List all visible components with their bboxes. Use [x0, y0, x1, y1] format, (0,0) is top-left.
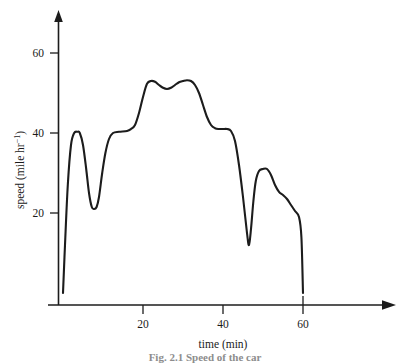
- x-axis-arrow-icon: [382, 300, 396, 310]
- x-axis: [48, 300, 396, 310]
- y-tick-label-40: 40: [33, 127, 45, 139]
- y-axis-title-main: speed (mile hr: [14, 143, 27, 209]
- y-tick-label-20: 20: [33, 207, 45, 219]
- x-axis-title: time (min): [199, 338, 248, 351]
- y-tick-label-60: 60: [33, 47, 45, 59]
- x-tick-label-20: 20: [137, 318, 149, 330]
- y-axis-ticks: [50, 53, 59, 213]
- y-axis: [54, 10, 63, 305]
- y-axis-title-superscript: −1: [13, 135, 22, 144]
- speed-time-chart: 60 40 20 20 40 60 time (min) speed (mile…: [0, 0, 411, 363]
- x-tick-label-60: 60: [297, 318, 309, 330]
- y-axis-title: speed (mile hr−1): [13, 131, 27, 209]
- y-axis-arrow-icon: [54, 10, 63, 22]
- x-tick-label-40: 40: [217, 318, 229, 330]
- svg-text:speed (mile hr−1): speed (mile hr−1): [13, 131, 27, 209]
- figure-caption: Fig. 2.1 Speed of the car: [149, 351, 262, 363]
- figure-container: 60 40 20 20 40 60 time (min) speed (mile…: [0, 0, 411, 363]
- y-axis-title-tail: ): [14, 131, 27, 135]
- speed-curve: [63, 80, 303, 293]
